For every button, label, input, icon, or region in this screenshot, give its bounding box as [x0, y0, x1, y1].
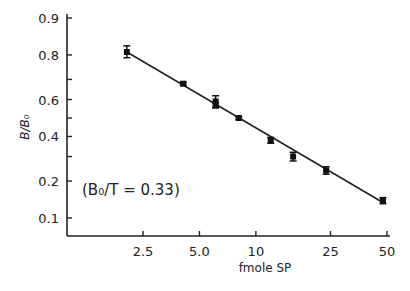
y-tick-label: 0.8	[38, 48, 59, 63]
data-point	[180, 81, 187, 87]
x-tick-label: 2.5	[133, 244, 154, 259]
x-axis-title: fmole SP	[239, 261, 292, 275]
y-tick-label: 0.6	[38, 93, 59, 108]
axes: 0.10.20.40.60.80.92.55.0102550	[38, 11, 395, 259]
y-tick-label: 0.9	[38, 11, 59, 26]
x-tick-label: 25	[322, 244, 339, 259]
x-tick-label: 5.0	[189, 244, 210, 259]
chart-canvas: 0.10.20.40.60.80.92.55.0102550fmole SPB/…	[0, 0, 410, 291]
y-tick-label: 0.4	[38, 129, 59, 144]
data-point	[323, 167, 330, 174]
data-point	[123, 46, 130, 58]
x-tick-label: 50	[379, 244, 396, 259]
annotation-b0-over-t: (B₀/T = 0.33)	[82, 181, 180, 199]
data-point	[267, 137, 274, 143]
y-tick-label: 0.1	[38, 211, 59, 226]
data-point	[290, 152, 297, 161]
data-point	[212, 102, 219, 108]
y-axis-title: B/B₀	[18, 114, 32, 140]
x-tick-label: 10	[248, 244, 265, 259]
y-tick-label: 0.2	[38, 174, 59, 189]
fit-line	[127, 52, 383, 202]
data-point	[235, 115, 242, 121]
data-point	[379, 198, 386, 204]
